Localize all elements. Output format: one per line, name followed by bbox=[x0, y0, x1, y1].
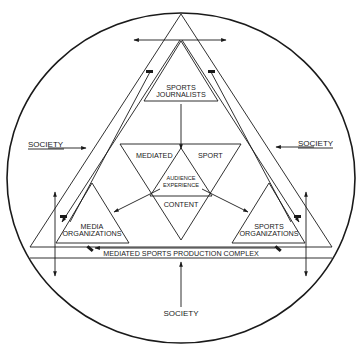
society-bottom-label: SOCIETY bbox=[163, 309, 199, 318]
audience-to-sports-org-arrow bbox=[202, 189, 248, 212]
left-inner-edge bbox=[62, 40, 180, 222]
production-complex-label: MEDIATED SPORTS PRODUCTION COMPLEX bbox=[103, 249, 259, 258]
sport-label: SPORT bbox=[198, 151, 223, 160]
audience-label-1: AUDIENCE bbox=[167, 175, 196, 181]
mediated-label: MEDIATED bbox=[136, 151, 173, 160]
right-inner-edge bbox=[182, 40, 299, 222]
left-top-mark bbox=[146, 70, 153, 73]
mediated-sports-complex-diagram: MEDIATED SPORTS PRODUCTION COMPLEX SPORT… bbox=[0, 0, 359, 356]
audience-label-2: EXPERIENCE bbox=[163, 182, 199, 188]
sports-org-label-2: ORGANIZATIONS bbox=[240, 229, 299, 238]
left-bottom-mark bbox=[60, 215, 67, 218]
base-left-mark bbox=[86, 245, 93, 252]
base-right-mark bbox=[274, 245, 281, 252]
sports-journalists-label-2: JOURNALISTS bbox=[156, 90, 206, 99]
right-top-mark bbox=[208, 70, 215, 73]
audience-to-media-arrow bbox=[114, 189, 160, 212]
content-label: CONTENT bbox=[164, 200, 199, 209]
right-bottom-mark bbox=[294, 215, 301, 218]
media-org-label-2: ORGANIZATIONS bbox=[63, 229, 122, 238]
